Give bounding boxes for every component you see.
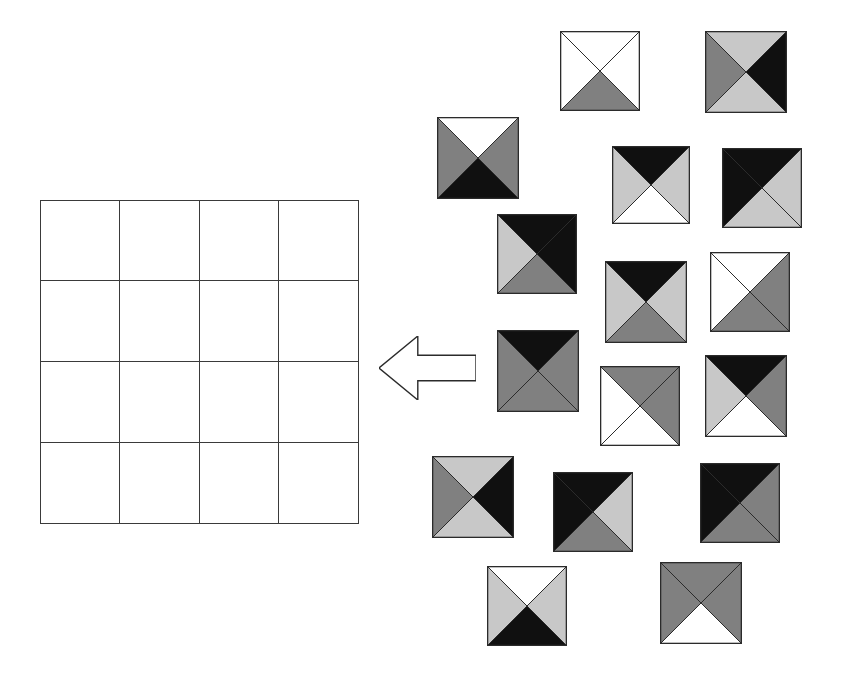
tile-option-10[interactable]	[600, 366, 680, 446]
grid-cell-r2c4[interactable]	[279, 281, 359, 362]
grid-cell-r3c3[interactable]	[200, 362, 280, 443]
grid-cell-r3c1[interactable]	[40, 362, 120, 443]
grid-cell-r2c1[interactable]	[40, 281, 120, 362]
tile-option-14[interactable]	[700, 463, 780, 543]
tile-option-7[interactable]	[605, 261, 687, 343]
grid-cell-r2c3[interactable]	[200, 281, 280, 362]
tile-option-16[interactable]	[660, 562, 742, 644]
tile-option-3[interactable]	[437, 117, 519, 199]
grid-cell-r1c2[interactable]	[120, 200, 200, 281]
grid-cell-r4c4[interactable]	[279, 443, 359, 524]
tile-option-4[interactable]	[612, 146, 690, 224]
grid-cell-r4c1[interactable]	[40, 443, 120, 524]
tile-option-9[interactable]	[497, 330, 579, 412]
answer-grid[interactable]	[40, 200, 359, 524]
figure-canvas	[0, 0, 846, 684]
grid-cell-r4c2[interactable]	[120, 443, 200, 524]
tile-option-13[interactable]	[553, 472, 633, 552]
tile-option-12[interactable]	[432, 456, 514, 538]
tile-option-5[interactable]	[722, 148, 802, 228]
grid-cell-r3c4[interactable]	[279, 362, 359, 443]
left-arrow-icon	[379, 336, 476, 400]
grid-cell-r1c3[interactable]	[200, 200, 280, 281]
tile-option-6[interactable]	[497, 214, 577, 294]
grid-cell-r2c2[interactable]	[120, 281, 200, 362]
tile-option-2[interactable]	[705, 31, 787, 113]
tile-option-15[interactable]	[487, 566, 567, 646]
tile-option-8[interactable]	[710, 252, 790, 332]
grid-cell-r4c3[interactable]	[200, 443, 280, 524]
grid-cell-r1c1[interactable]	[40, 200, 120, 281]
tile-option-1[interactable]	[560, 31, 640, 111]
tile-option-11[interactable]	[705, 355, 787, 437]
grid-cell-r3c2[interactable]	[120, 362, 200, 443]
grid-cell-r1c4[interactable]	[279, 200, 359, 281]
